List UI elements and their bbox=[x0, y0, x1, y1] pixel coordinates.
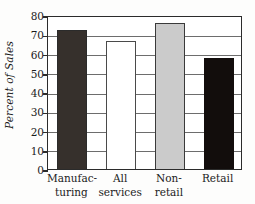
y-axis-tick-label: 60 bbox=[20, 49, 44, 60]
x-axis-tick-label-line: Manufac- bbox=[47, 172, 96, 186]
y-axis-tick-mark bbox=[43, 16, 48, 18]
x-axis-tick-label: Non-retail bbox=[145, 172, 194, 199]
y-axis-tick-label: 10 bbox=[20, 146, 44, 157]
y-axis-tick-label: 40 bbox=[20, 88, 44, 99]
x-axis-tick-label-line: Retail bbox=[193, 172, 242, 186]
bar bbox=[57, 30, 87, 169]
y-axis-tick-label: 80 bbox=[20, 11, 44, 22]
y-axis-title: Percent of Sales bbox=[0, 0, 18, 170]
bar bbox=[106, 41, 136, 169]
x-axis-tick-labels: Manufac-turingAllservicesNon-retailRetai… bbox=[47, 172, 242, 204]
x-axis-tick-label: Retail bbox=[193, 172, 242, 186]
x-axis-tick-label: Allservices bbox=[96, 172, 145, 199]
y-axis-tick-mark bbox=[43, 151, 48, 153]
y-axis-tick-mark bbox=[43, 132, 48, 134]
plot-area bbox=[47, 16, 242, 170]
y-axis-tick-mark bbox=[43, 93, 48, 95]
y-axis-tick-label: 70 bbox=[20, 30, 44, 41]
x-axis-tick-label-line: services bbox=[96, 186, 145, 200]
y-axis-tick-label: 0 bbox=[20, 165, 44, 176]
y-axis-tick-label: 30 bbox=[20, 107, 44, 118]
y-axis-tick-labels: 01020304050607080 bbox=[19, 0, 44, 204]
x-axis-tick-label-line: All bbox=[96, 172, 145, 186]
x-axis-tick-label-line: turing bbox=[47, 186, 96, 200]
bar bbox=[155, 23, 185, 169]
bar bbox=[204, 58, 234, 169]
x-axis-tick-label-line: Non- bbox=[145, 172, 194, 186]
y-axis-tick-mark bbox=[43, 55, 48, 57]
bar-chart-figure: Percent of Sales 01020304050607080 Manuf… bbox=[0, 0, 255, 204]
y-axis-tick-label: 50 bbox=[20, 69, 44, 80]
y-axis-tick-mark bbox=[43, 36, 48, 38]
y-axis-title-text: Percent of Sales bbox=[3, 41, 15, 129]
y-axis-tick-mark bbox=[43, 74, 48, 76]
y-axis-tick-label: 20 bbox=[20, 126, 44, 137]
x-axis-tick-label-line: retail bbox=[145, 186, 194, 200]
x-axis-tick-label: Manufac-turing bbox=[47, 172, 96, 199]
y-axis-tick-mark bbox=[43, 113, 48, 115]
